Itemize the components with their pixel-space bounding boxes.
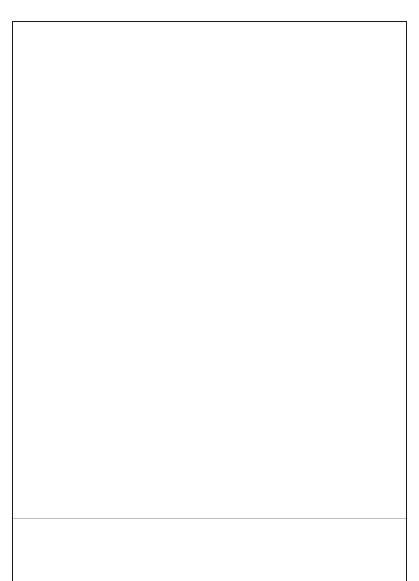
footer-divider — [13, 518, 406, 519]
running-head — [14, 0, 274, 12]
figure-container — [12, 21, 407, 581]
